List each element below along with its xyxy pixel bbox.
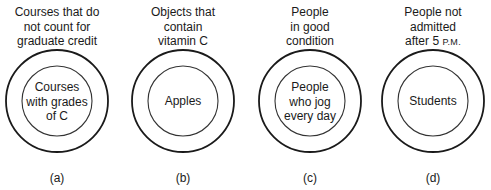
label-line: Apples [122,94,244,109]
label-line: Courses that do [0,5,118,20]
diagram-caption: (b) [122,171,244,185]
outer-set-label: People not admitted after 5 P.M. [372,5,491,50]
label-text: after 5 [405,34,439,48]
diagram-c: People in good condition People who jog … [249,0,371,190]
label-line: Objects that [122,5,244,20]
inner-set-label: Students [372,94,491,109]
diagram-d: People not admitted after 5 P.M. Student… [372,0,491,190]
label-line: People [249,5,371,20]
diagram-caption: (a) [0,171,118,185]
inner-set-label: Courses with grades of C [0,80,118,124]
label-line: condition [249,34,371,49]
label-line: not count for [0,20,118,35]
label-line: contain [122,20,244,35]
outer-set-label: People in good condition [249,5,371,49]
label-line: Courses [0,80,118,95]
inner-set-label: People who jog every day [249,80,371,124]
label-line: every day [249,109,371,124]
diagram-caption: (c) [249,171,371,185]
label-line: with grades [0,95,118,110]
diagram-a: Courses that do not count for graduate c… [0,0,118,190]
diagram-b: Objects that contain vitamin C Apples (b… [122,0,244,190]
label-line: graduate credit [0,34,118,49]
label-line: of C [0,109,118,124]
label-line: who jog [249,95,371,110]
inner-set-label: Apples [122,94,244,109]
label-line: Students [372,94,491,109]
outer-set-label: Objects that contain vitamin C [122,5,244,49]
time-suffix: P.M. [442,37,461,47]
label-line: People not [372,5,491,20]
outer-set-label: Courses that do not count for graduate c… [0,5,118,49]
label-line: vitamin C [122,34,244,49]
diagram-caption: (d) [372,171,491,185]
label-line: admitted [372,20,491,35]
label-line: in good [249,20,371,35]
label-line: People [249,80,371,95]
